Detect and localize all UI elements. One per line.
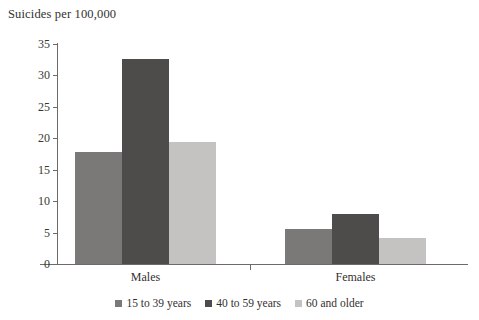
legend-item: 60 and older: [295, 297, 363, 309]
bar-chart: Suicides per 100,000 05101520253035 Male…: [0, 0, 479, 320]
y-axis-tick-label: 15: [38, 162, 50, 177]
bar: [169, 142, 216, 264]
chart-title: Suicides per 100,000: [8, 7, 116, 22]
legend-swatch-icon: [205, 300, 212, 307]
bar: [122, 59, 169, 264]
legend-label: 15 to 39 years: [126, 297, 191, 309]
bar: [379, 238, 426, 264]
legend-item: 15 to 39 years: [115, 297, 191, 309]
plot-area: [58, 44, 468, 264]
y-axis-tick-label: 10: [38, 194, 50, 209]
chart-legend: 15 to 39 years40 to 59 years60 and older: [0, 297, 479, 309]
legend-swatch-icon: [295, 300, 302, 307]
legend-label: 40 to 59 years: [216, 297, 281, 309]
y-axis-tick-label: 20: [38, 131, 50, 146]
x-axis-line: [40, 264, 468, 265]
y-axis-tick-label: 25: [38, 99, 50, 114]
legend-swatch-icon: [115, 300, 122, 307]
y-axis-tick-label: 30: [38, 68, 50, 83]
y-axis-tick-label: 5: [44, 225, 50, 240]
y-axis-tick-label: 0: [44, 257, 50, 272]
y-axis-tick: [53, 264, 58, 265]
x-axis-category-label: Males: [131, 270, 160, 285]
category-separator-tick: [250, 264, 251, 270]
bar: [75, 152, 122, 264]
x-axis-category-label: Females: [336, 270, 376, 285]
legend-item: 40 to 59 years: [205, 297, 281, 309]
y-axis-tick-label: 35: [38, 37, 50, 52]
legend-label: 60 and older: [306, 297, 363, 309]
bar: [285, 229, 332, 264]
bar: [332, 214, 379, 264]
